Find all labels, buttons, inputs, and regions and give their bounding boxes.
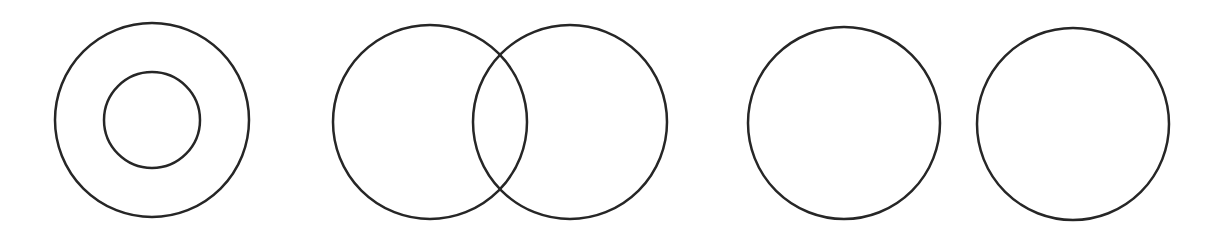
- disjoint-right-circle: [977, 28, 1169, 220]
- disjoint-group: [748, 27, 1169, 220]
- overlap-group: [333, 25, 667, 219]
- containment-outer-circle: [55, 23, 249, 217]
- containment-group: [55, 23, 249, 217]
- disjoint-left-circle: [748, 27, 940, 219]
- containment-inner-circle: [104, 72, 200, 168]
- overlap-right-circle: [473, 25, 667, 219]
- overlap-left-circle: [333, 25, 527, 219]
- set-relations-diagram: [0, 0, 1220, 243]
